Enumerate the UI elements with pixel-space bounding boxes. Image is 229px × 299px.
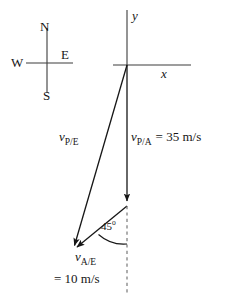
vector-subscript-pa: P/A bbox=[137, 137, 152, 147]
coordinate-axes bbox=[113, 10, 191, 65]
vector-value-ae: = 10 m/s bbox=[54, 272, 100, 285]
angle-value: 45 bbox=[101, 220, 112, 232]
angle-arc-45 bbox=[99, 235, 128, 245]
vector-subscript-ae: A/E bbox=[81, 257, 96, 267]
x-axis-label: x bbox=[161, 67, 167, 80]
compass-label-west: W bbox=[11, 56, 23, 69]
compass-label-south: S bbox=[43, 89, 50, 102]
vector-label-plane-relative-earth: vP/E bbox=[59, 130, 79, 147]
angle-label-45: 45o bbox=[101, 219, 116, 232]
vector-label-air-relative-earth: vA/E = 10 m/s bbox=[75, 250, 100, 285]
y-axis-label: y bbox=[132, 9, 138, 22]
compass-label-north: N bbox=[40, 20, 49, 33]
vector-label-ae-line1: vA/E bbox=[75, 250, 100, 267]
degree-symbol: o bbox=[112, 218, 116, 227]
figure-root: N S W E y x vP/E vP/A= 35 m/s 45o vA/E =… bbox=[0, 0, 229, 299]
vector-subscript-pe: P/E bbox=[65, 137, 79, 147]
compass-label-east: E bbox=[61, 48, 69, 61]
vector-value-pa: = 35 m/s bbox=[156, 129, 202, 144]
vector-diagram-canvas bbox=[0, 0, 229, 299]
vector-label-plane-relative-air: vP/A= 35 m/s bbox=[131, 130, 201, 147]
